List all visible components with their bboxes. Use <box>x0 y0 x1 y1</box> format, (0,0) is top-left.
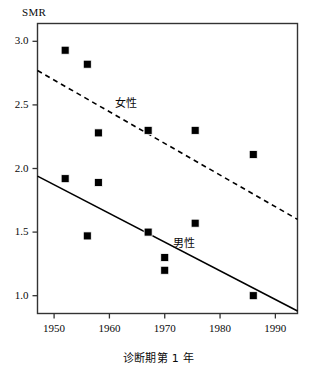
data-point <box>83 232 91 240</box>
y-tick-label: 1.0 <box>0 289 29 301</box>
data-point <box>83 60 91 68</box>
data-point <box>94 129 102 137</box>
data-point <box>249 151 257 159</box>
x-tick-label: 1970 <box>145 322 185 334</box>
x-tick-label: 1990 <box>255 322 295 334</box>
x-axis-ticks <box>54 314 275 319</box>
x-tick-label: 1960 <box>89 322 129 334</box>
series-label-男性: 男性 <box>173 234 195 250</box>
data-point <box>191 126 199 134</box>
y-tick-label: 3.0 <box>0 34 29 46</box>
x-tick-label: 1980 <box>200 322 240 334</box>
series-label-女性: 女性 <box>115 94 137 110</box>
data-point <box>94 178 102 186</box>
y-tick-label: 1.5 <box>0 225 29 237</box>
y-tick-label: 2.5 <box>0 98 29 110</box>
y-axis-ticks <box>33 41 38 295</box>
data-point-markers <box>61 46 257 299</box>
chart-container: SMR 1.01.52.02.53.019501960197019801990女… <box>0 0 317 375</box>
data-point <box>144 228 152 236</box>
x-axis-title: 诊断期第 1 年 <box>0 349 317 365</box>
data-point <box>161 266 169 274</box>
data-point <box>144 126 152 134</box>
regression-lines <box>38 71 298 311</box>
data-point <box>161 254 169 262</box>
y-tick-label: 2.0 <box>0 162 29 174</box>
plot-area <box>0 0 317 375</box>
x-tick-label: 1950 <box>34 322 74 334</box>
data-point <box>191 219 199 227</box>
data-point <box>61 46 69 54</box>
data-point <box>249 292 257 300</box>
data-point <box>61 175 69 183</box>
